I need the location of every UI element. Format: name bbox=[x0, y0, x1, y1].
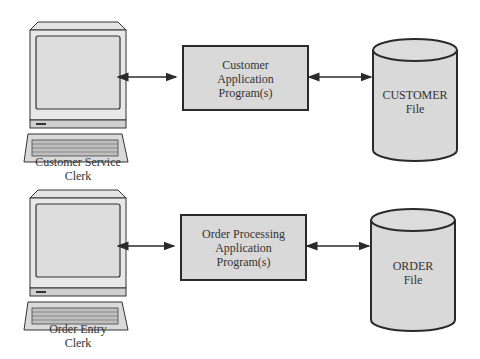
label-line: Program(s) bbox=[181, 255, 306, 269]
program-label-order: Order Processing Application Program(s) bbox=[181, 227, 306, 269]
program-label-customer: Customer Application Program(s) bbox=[183, 58, 308, 100]
terminal-customer-service bbox=[24, 22, 128, 162]
label-line: Order Processing bbox=[181, 227, 306, 241]
file-label-customer: CUSTOMER File bbox=[373, 88, 457, 116]
label-line: Clerk bbox=[18, 336, 138, 350]
terminal-order-entry bbox=[24, 190, 128, 330]
terminal-label-customer-service: Customer Service Clerk bbox=[18, 155, 138, 183]
label-line: ORDER bbox=[371, 259, 455, 273]
label-line: Order Entry bbox=[18, 322, 138, 336]
label-line: File bbox=[373, 102, 457, 116]
label-line: Application bbox=[183, 72, 308, 86]
label-line: Customer Service bbox=[18, 155, 138, 169]
label-line: File bbox=[371, 273, 455, 287]
file-label-order: ORDER File bbox=[371, 259, 455, 287]
label-line: Application bbox=[181, 241, 306, 255]
label-line: Program(s) bbox=[183, 86, 308, 100]
label-line: CUSTOMER bbox=[373, 88, 457, 102]
label-line: Customer bbox=[183, 58, 308, 72]
terminal-label-order-entry: Order Entry Clerk bbox=[18, 322, 138, 350]
label-line: Clerk bbox=[18, 169, 138, 183]
